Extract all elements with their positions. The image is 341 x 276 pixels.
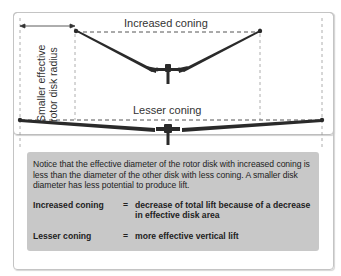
equation-row-increased: Increased coning = decrease of total lif…	[33, 200, 313, 221]
radius-arrow	[20, 24, 75, 28]
equation-term: Lesser coning	[33, 231, 123, 242]
equation-term: Increased coning	[33, 200, 123, 221]
rotor-radius-label: Smaller effective rotor disk radius	[36, 45, 59, 122]
side-label-line1: Smaller effective	[36, 45, 48, 122]
lesser-coning-label: Lesser coning	[133, 104, 202, 116]
side-label-line2: rotor disk radius	[48, 45, 60, 122]
lesser-coning-rotor	[18, 118, 324, 145]
note-paragraph: Notice that the effective diameter of th…	[33, 159, 313, 191]
equation-definition: decrease of total lift because of a decr…	[135, 200, 313, 221]
equation-row-lesser: Lesser coning = more effective vertical …	[33, 231, 313, 242]
increased-coning-label: Increased coning	[124, 17, 208, 29]
increased-coning-rotor	[74, 29, 262, 84]
equation-sign: =	[123, 231, 135, 242]
equation-sign: =	[123, 200, 135, 221]
equation-definition: more effective vertical lift	[135, 231, 313, 242]
note-box: Notice that the effective diameter of th…	[27, 152, 319, 251]
